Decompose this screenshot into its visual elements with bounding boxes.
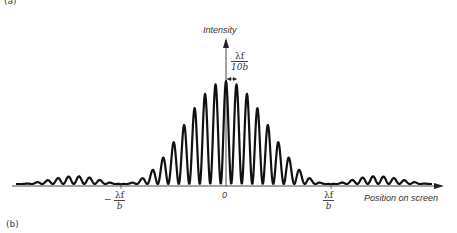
right-zero-numerator: λf: [323, 190, 334, 201]
spacing-arrow-left-icon: [227, 77, 231, 81]
fringe-spacing-label: λf 10b: [231, 51, 248, 72]
spacing-arrow-right-icon: [233, 77, 237, 81]
left-zero-denominator: b: [114, 201, 125, 211]
right-zero-denominator: b: [323, 201, 334, 211]
left-zero-sign: −: [104, 194, 112, 204]
y-axis-arrow-icon: [223, 38, 229, 48]
left-zero-label: λf b: [114, 190, 125, 211]
panel-label-a: (a): [4, 0, 17, 6]
y-axis-label: Intensity: [203, 25, 237, 35]
panel-label-b: (b): [6, 219, 19, 229]
intensity-curve: [16, 81, 432, 184]
x-axis-label: Position on screen: [364, 193, 438, 203]
x-axis-arrow-icon: [434, 183, 444, 189]
fringe-spacing-denominator: 10b: [231, 62, 248, 72]
left-zero-numerator: λf: [114, 190, 125, 201]
right-zero-label: λf b: [323, 190, 334, 211]
fringe-spacing-numerator: λf: [231, 51, 248, 62]
origin-label: 0: [222, 190, 227, 200]
